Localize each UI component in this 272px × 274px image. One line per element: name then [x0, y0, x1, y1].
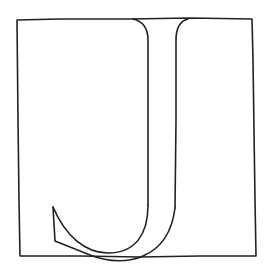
letter-j-right-stem — [175, 19, 188, 208]
letter-j-drawing — [0, 0, 272, 274]
square-frame — [17, 18, 256, 257]
illustration-canvas — [0, 0, 272, 274]
letter-j-left-stem — [133, 19, 148, 205]
